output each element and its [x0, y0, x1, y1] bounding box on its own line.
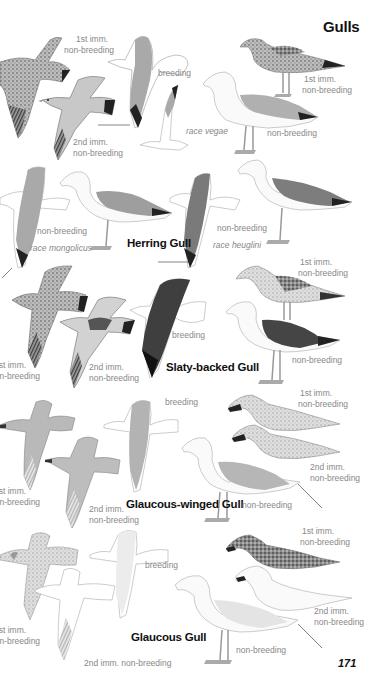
- species-name-glaucous-gull: Glaucous Gull: [131, 631, 206, 643]
- label-gw-perched-nonbreeding: non-breeding: [242, 500, 292, 511]
- species-name-slaty-backed-gull: Slaty-backed Gull: [166, 361, 259, 373]
- label-slaty-flight-1st-imm: 1st imm. non-breeding: [0, 360, 40, 382]
- label-slaty-flight-2nd-imm: 2nd imm. non-breeding: [89, 362, 139, 384]
- glaucous-2nd-imm-perched: [236, 566, 352, 610]
- gw-breeding-flight: [104, 401, 178, 492]
- label-glaucous-perched-2nd-imm: 2nd imm. non-breeding: [314, 606, 364, 628]
- label-herring-flight-1st-imm: 1st imm. non-breeding: [64, 34, 114, 56]
- label-glaucous-perched-nonbreeding: non-breeding: [236, 645, 286, 656]
- page-title: Gulls: [323, 18, 360, 35]
- label-slaty-perched-nonbreeding: non-breeding: [292, 355, 342, 366]
- label-gw-flight-2nd-imm: 2nd imm. non-breeding: [89, 504, 139, 526]
- label-herring-flight-breeding: breeding: [158, 68, 191, 79]
- species-name-glaucous-winged-gull: Glaucous-winged Gull: [126, 498, 243, 510]
- label-glaucous-flight-2nd-imm: 2nd imm. non-breeding: [84, 658, 171, 669]
- glaucous-2nd-imm-flight: [35, 568, 115, 660]
- herring-nonbreeding-perched: [203, 72, 318, 154]
- label-herring-race-mongolicus: race mongolicus: [30, 243, 92, 254]
- label-herring-heuglini-nonbreeding: non-breeding: [217, 223, 267, 234]
- label-gw-perched-1st-imm: 1st imm. non-breeding: [298, 388, 348, 410]
- gull-illustrations: [0, 0, 385, 688]
- gw-1st-imm-flight: [0, 400, 75, 490]
- herring-heuglini-flight: [158, 174, 240, 269]
- label-herring-perched-1st-imm: 1st imm. non-breeding: [302, 74, 352, 96]
- label-slaty-flight-breeding: breeding: [172, 330, 205, 341]
- field-guide-page: Gulls 1st imm. non-breeding breeding 2nd…: [0, 0, 385, 688]
- label-herring-race-vegae: race vegae: [186, 126, 228, 137]
- label-herring-flight-2nd-imm: 2nd imm. non-breeding: [73, 137, 123, 159]
- label-glaucous-flight-1st-imm: 1st imm. non-breeding: [0, 625, 40, 647]
- page-number: 171: [338, 657, 356, 669]
- glaucous-breeding-flight: [90, 531, 168, 618]
- label-glaucous-flight-breeding: breeding: [145, 560, 178, 571]
- herring-mongolicus-flight: [0, 167, 70, 278]
- species-name-herring-gull: Herring Gull: [127, 237, 191, 249]
- label-gw-flight-breeding: breeding: [165, 397, 198, 408]
- label-slaty-perched-1st-imm: 1st imm. non-breeding: [298, 257, 348, 279]
- label-herring-perched-nonbreeding: non-breeding: [267, 128, 317, 139]
- label-gw-flight-1st-imm: 1st imm. non-breeding: [0, 486, 40, 508]
- label-herring-mongolicus-nonbreeding: non-breeding: [37, 226, 87, 237]
- label-herring-race-heuglini: race heuglini: [213, 240, 261, 251]
- label-gw-perched-2nd-imm: 2nd imm. non-breeding: [310, 462, 360, 484]
- label-glaucous-perched-1st-imm: 1st imm. non-breeding: [300, 526, 350, 548]
